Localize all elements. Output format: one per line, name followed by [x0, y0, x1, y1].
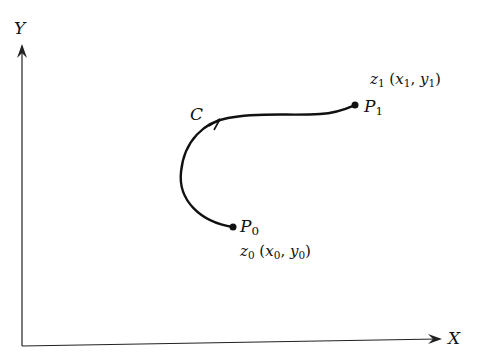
curve-label: C	[190, 104, 203, 124]
coord-name: z	[240, 242, 248, 260]
curve-c	[181, 105, 355, 227]
coord-x: x	[395, 70, 403, 88]
point-subscript: 0	[251, 224, 259, 238]
point-name: P	[240, 216, 251, 236]
coord-sep: ,	[410, 70, 420, 88]
x-axis-line	[22, 339, 438, 346]
diagram-canvas: Y X C P1 z1 (x1, y1) P0 z0 (x0, y0)	[0, 0, 480, 362]
x-axis-label: X	[448, 328, 460, 348]
coord-subscript: 0	[248, 249, 255, 261]
coord-close: )	[435, 70, 441, 88]
coord-close: )	[305, 242, 311, 260]
point-subscript: 1	[375, 104, 383, 118]
point-p0-coordinates: z0 (x0, y0)	[240, 242, 311, 261]
y-axis-label: Y	[14, 18, 25, 38]
point-p1-dot	[352, 102, 359, 109]
coord-open: (	[385, 70, 396, 88]
coord-open: (	[255, 242, 266, 260]
point-p0-label: P0	[240, 216, 259, 238]
coord-sep: ,	[280, 242, 290, 260]
coord-name: z	[370, 70, 378, 88]
point-p1-label: P1	[364, 96, 383, 118]
coord-x: x	[265, 242, 273, 260]
point-p1-coordinates: z1 (x1, y1)	[370, 70, 441, 89]
diagram-svg	[0, 0, 480, 362]
point-name: P	[364, 96, 375, 116]
curve-direction-arrow-icon	[209, 119, 220, 130]
point-p0-dot	[230, 224, 237, 231]
coord-subscript: 1	[378, 77, 385, 89]
